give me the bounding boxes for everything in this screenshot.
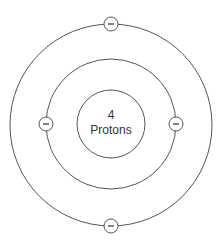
- proton-count: 4: [77, 108, 145, 123]
- electron-inner-left: [39, 117, 53, 131]
- electron-inner-right: [169, 117, 183, 131]
- electron-outer-top: [104, 17, 118, 31]
- proton-label: Protons: [77, 123, 145, 138]
- electron-outer-bottom: [104, 219, 118, 233]
